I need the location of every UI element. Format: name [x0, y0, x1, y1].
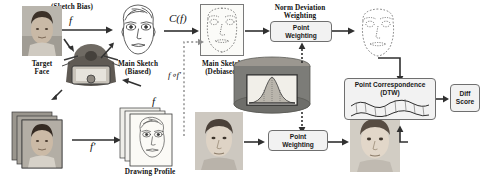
norm-deviation-label-line2: Weighting: [254, 12, 346, 20]
arrow-debiased-to-weighting: [245, 25, 271, 37]
connector-bottom-face-to-dtw: [378, 120, 414, 162]
point-correspondence-line2: (DTW): [345, 89, 435, 97]
sketch-stack-icon: [120, 106, 182, 168]
pipeline-diagram: (Sketch Bias) f Target Face: [0, 0, 484, 189]
point-weighting-top-line1: Point: [285, 24, 317, 32]
photo-stack-icon: [12, 112, 70, 170]
profile-photo-stack: [12, 112, 70, 170]
point-weighting-bottom-box[interactable]: Point Weighting: [268, 130, 328, 151]
arrow-photos-to-profile: [72, 134, 122, 146]
main-sketch-debiased-box: [200, 4, 244, 56]
arrow-profile-to-artist: [120, 78, 142, 90]
arrow-target-to-sketch: [62, 24, 114, 36]
photo-portrait-icon: [195, 112, 243, 170]
photo-portrait-icon: [22, 6, 62, 56]
probe-photo-bottom: [195, 112, 243, 170]
point-weighting-bottom-line2: Weighting: [282, 141, 314, 149]
database-cylinder-icon: [234, 57, 310, 113]
norm-deviation-label-line1: Norm Deviation: [254, 4, 346, 12]
dotted-arrow-db-to-top-weighting: [296, 42, 308, 64]
diff-score-line1: Diff: [456, 90, 474, 98]
c-of-f-label: C(f): [169, 12, 187, 24]
arrow-artist-to-profile: [50, 88, 64, 102]
profile-sketch-stack: [120, 106, 182, 168]
face-landmark-outline-icon: [201, 5, 243, 55]
diff-score-line2: Score: [456, 98, 474, 106]
function-f-prime-label: f': [90, 140, 95, 152]
arrow-weighting-to-face: [332, 25, 356, 37]
connector-top-face-to-dtw: [378, 36, 414, 84]
arrow-artist-to-main-sketch: [100, 42, 116, 60]
arrow-bottom-weighting-to-probe: [328, 136, 350, 148]
arrow-dtw-to-diff-score: [436, 93, 450, 105]
point-weighting-bottom-line1: Point: [282, 133, 314, 141]
point-weighting-top-box[interactable]: Point Weighting: [270, 21, 332, 42]
point-correspondence-line1: Point Correspondence: [345, 81, 435, 89]
point-weighting-top-line2: Weighting: [285, 32, 317, 40]
drawing-profile-label: Drawing Profile: [112, 168, 188, 176]
target-face-photo: [22, 6, 62, 56]
point-correspondence-box[interactable]: Point Correspondence (DTW): [344, 78, 436, 120]
database-cylinder: [232, 56, 312, 118]
diff-score-box[interactable]: Diff Score: [450, 84, 480, 112]
dtw-alignment-curves-icon: [348, 97, 432, 119]
arrow-target-to-artist: [62, 38, 76, 54]
arrow-probe-to-bottom-weighting: [244, 136, 266, 148]
